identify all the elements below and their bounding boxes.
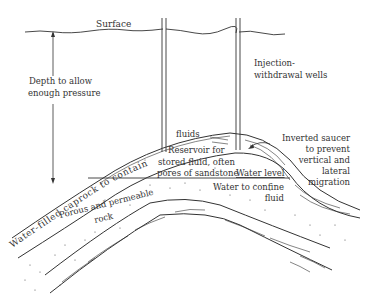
surface-label: Surface xyxy=(96,19,131,29)
storage-diagram: Surface Depth to allow enough pressure I… xyxy=(0,0,378,306)
depth-label-line2: enough pressure xyxy=(28,88,101,98)
reservoir-label-line2: stored fluid, often xyxy=(158,157,236,167)
depth-label-line1: Depth to allow xyxy=(29,76,93,86)
saucer-label-line1: Inverted saucer xyxy=(282,133,351,143)
lower-rock-bottom xyxy=(50,214,332,293)
injection-well-right xyxy=(236,18,240,150)
water-level-label: Water level xyxy=(236,168,285,178)
saucer-label-line3: vertical and xyxy=(298,155,351,165)
depth-arrow xyxy=(51,31,55,184)
injection-well-left xyxy=(162,18,166,152)
saucer-label-line5: migration xyxy=(308,177,351,187)
wells-label-line1: Injection- xyxy=(254,58,295,68)
saucer-label-line4: lateral xyxy=(322,166,350,176)
water-confine-line1: Water to confine xyxy=(213,182,284,192)
reservoir-label-line3: pores of sandstone xyxy=(157,168,238,178)
saucer-label-line2: to prevent xyxy=(306,144,351,154)
saucer-pointer-head xyxy=(248,144,254,149)
porous-stipple xyxy=(24,159,345,290)
wells-label-line2: withdrawal wells xyxy=(254,70,327,80)
fluids-label: fluids xyxy=(176,129,200,139)
reservoir-label-line1: Reservoir for xyxy=(168,145,226,155)
water-confine-line2: fluid xyxy=(265,193,285,203)
porous-label-line2: rock xyxy=(93,210,115,225)
surface-line xyxy=(25,26,285,35)
